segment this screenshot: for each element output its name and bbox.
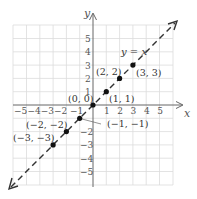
svg-text:3: 3 <box>131 106 137 116</box>
svg-text:3: 3 <box>85 61 91 71</box>
svg-text:1: 1 <box>104 106 110 116</box>
svg-text:−3: −3 <box>41 106 55 116</box>
svg-text:−3: −3 <box>80 140 94 150</box>
svg-text:4: 4 <box>85 47 91 57</box>
leader-line <box>82 119 101 124</box>
svg-text:−4: −4 <box>80 154 94 164</box>
svg-text:4: 4 <box>144 106 150 116</box>
svg-text:−2: −2 <box>54 106 67 116</box>
svg-text:5: 5 <box>157 106 163 116</box>
point-m3 <box>51 142 56 147</box>
label-2: (2, 2) <box>96 66 122 77</box>
label-1: (1, 1) <box>109 93 135 104</box>
y-axis-label: y <box>83 7 91 20</box>
equation-label: y = x <box>120 46 147 57</box>
svg-text:−2: −2 <box>80 127 93 137</box>
svg-text:2: 2 <box>85 74 91 84</box>
line-arrow-bottom-icon <box>9 178 18 189</box>
label-origin: (0, 0) <box>68 93 94 104</box>
x-axis-label: x <box>184 107 191 120</box>
svg-text:−4: −4 <box>28 106 42 116</box>
svg-text:2: 2 <box>117 106 123 116</box>
label-m3: (−3, −3) <box>13 132 54 143</box>
point-m1 <box>77 116 82 121</box>
coordinate-plane: y x −5 −4 −3 −2 −1 1 2 3 4 5 5 4 3 2 1 −… <box>0 0 197 199</box>
svg-text:−5: −5 <box>80 167 94 177</box>
x-tick-labels: −5 −4 −3 −2 −1 1 2 3 4 5 <box>14 106 163 116</box>
label-m2: (−2, −2) <box>26 119 67 130</box>
point-3 <box>130 63 135 68</box>
svg-text:−1: −1 <box>70 106 83 116</box>
label-m1: (−1, −1) <box>107 118 148 129</box>
label-3: (3, 3) <box>136 67 162 78</box>
svg-text:−5: −5 <box>14 106 28 116</box>
svg-text:5: 5 <box>85 34 91 44</box>
